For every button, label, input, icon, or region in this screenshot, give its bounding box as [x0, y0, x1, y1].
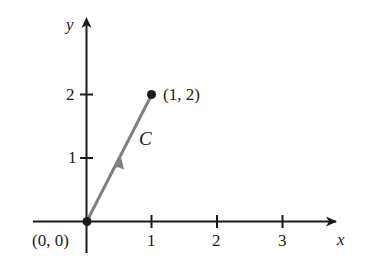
y-axis-label: y [66, 16, 74, 33]
curve-label-c: C [139, 129, 152, 148]
x-tick-label-2: 2 [212, 232, 221, 249]
y-tick-label-2: 2 [66, 86, 75, 103]
point-1-2-marker [147, 90, 156, 99]
x-tick-label-1: 1 [147, 232, 156, 249]
point-label-1-2: (1, 2) [163, 86, 200, 103]
x-tick-label-3: 3 [278, 232, 287, 249]
curve-c-direction-arrowhead [111, 155, 124, 171]
y-tick-label-1: 1 [68, 149, 77, 166]
figure-canvas: y x 2 1 1 2 3 (1, 2) C (0, 0) [0, 0, 365, 273]
x-axis-label: x [337, 231, 345, 248]
origin-label-0-0: (0, 0) [32, 232, 69, 249]
origin-point-marker [83, 217, 92, 226]
